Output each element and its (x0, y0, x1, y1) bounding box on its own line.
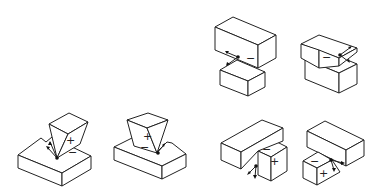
label-minus: − (140, 141, 149, 154)
contact-point (236, 55, 240, 59)
diagram-canvas: + − + − − (0, 0, 376, 194)
figure-6: − + (303, 121, 364, 185)
label-plus: + (270, 155, 279, 168)
contact-point (55, 156, 59, 160)
figure-2: + − (114, 113, 186, 179)
contact-point (254, 164, 258, 168)
label-minus: − (68, 146, 77, 159)
label-plus: + (319, 167, 328, 180)
figure-4: − (301, 35, 357, 93)
contact-point (156, 151, 160, 155)
contact-point (329, 158, 333, 162)
label-minus: − (246, 52, 255, 65)
figure-5: − + (221, 120, 287, 181)
figure-3: − (215, 17, 276, 96)
label-minus: − (310, 155, 319, 168)
contact-point (338, 53, 342, 57)
figure-1: + − (18, 113, 91, 186)
label-minus: − (322, 51, 331, 64)
